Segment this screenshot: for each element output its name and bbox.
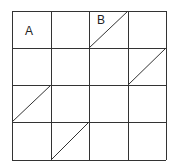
- grid-lines: [12, 11, 167, 161]
- diagonal-line: [51, 122, 89, 160]
- grid-diagram: A B: [0, 0, 178, 165]
- cell-label-a: A: [25, 24, 33, 38]
- cell-label-b: B: [97, 13, 105, 27]
- diagonal-line: [12, 85, 51, 122]
- diagonal-line: [128, 48, 166, 85]
- diagonal-line: [89, 11, 128, 48]
